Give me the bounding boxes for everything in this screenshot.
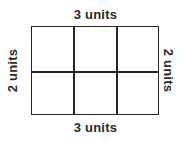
rectangle-grid-diagram: 3 units 2 units 2 units 3 units — [0, 0, 191, 141]
grid-rectangle — [31, 26, 159, 115]
grid-divider-horizontal-1 — [32, 71, 158, 73]
dimension-label-bottom: 3 units — [0, 121, 191, 134]
dimension-label-right: 2 units — [162, 43, 175, 99]
dimension-label-left: 2 units — [6, 43, 19, 99]
dimension-label-top: 3 units — [0, 8, 191, 21]
